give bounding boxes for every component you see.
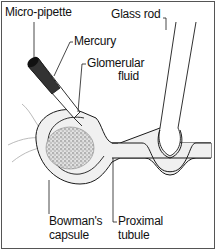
- label-bowmans-capsule-line2: capsule: [49, 229, 89, 242]
- glomerulus: [46, 127, 94, 169]
- label-glass-rod: Glass rod: [111, 8, 161, 21]
- label-glomerular-fluid-line2: fluid: [118, 70, 139, 83]
- label-bowmans-capsule-line1: Bowman's: [49, 215, 102, 228]
- label-proximal-tubule-line2: tubule: [118, 229, 150, 242]
- label-micro-pipette: Micro-pipette: [5, 6, 72, 19]
- label-mercury: Mercury: [74, 35, 116, 48]
- label-proximal-tubule-line1: Proximal: [118, 215, 163, 228]
- glass-rod: [158, 22, 196, 158]
